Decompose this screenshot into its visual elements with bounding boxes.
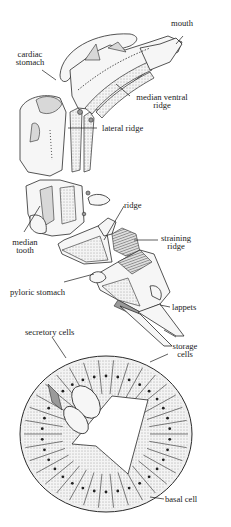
label-basal-cell: basal cell — [165, 495, 197, 503]
label-median-tooth: median tooth — [10, 238, 40, 255]
cell-nucleus — [47, 458, 50, 461]
cell-nucleus — [43, 417, 46, 420]
label-straining-ridge-line2: ridge — [156, 242, 196, 250]
cell-nucleus — [71, 383, 74, 386]
pyloric-stomach-drawing — [90, 250, 184, 346]
cell-nucleus — [105, 375, 108, 378]
cell-nucleus — [81, 379, 84, 382]
cell-nucleus — [148, 390, 151, 393]
cell-nucleus — [166, 448, 169, 451]
label-median-ventral-ridge-line2: ridge — [130, 101, 194, 109]
label-storage-cells: storage cells — [168, 342, 202, 359]
cell-nucleus — [47, 407, 50, 410]
cell-nucleus — [71, 482, 74, 485]
cell-nucleus — [93, 376, 96, 379]
cell-nucleus — [105, 491, 108, 494]
label-mouth: mouth — [171, 19, 193, 27]
cell-nucleus — [81, 487, 84, 490]
stomach-diagram — [0, 0, 231, 527]
label-straining-ridge: straining ridge — [156, 234, 196, 251]
label-median-ventral-ridge: median ventral ridge — [130, 93, 194, 110]
cell-nucleus — [148, 475, 151, 478]
label-median-tooth-line2: tooth — [10, 246, 40, 254]
label-lateral-ridge: lateral ridge — [102, 124, 143, 132]
cell-nucleus — [116, 490, 119, 493]
cell-nucleus — [61, 390, 64, 393]
label-secretory-cells: secretory cells — [25, 328, 74, 336]
cell-nucleus — [116, 376, 119, 379]
cell-nucleus — [41, 427, 44, 430]
cell-nucleus — [61, 475, 64, 478]
label-pyloric-stomach: pyloric stomach — [10, 288, 65, 296]
label-cardiac-stomach-line2: stomach — [13, 58, 47, 66]
cell-nucleus — [156, 398, 159, 401]
cell-nucleus — [162, 458, 165, 461]
label-cardiac-stomach: cardiac stomach — [13, 50, 47, 67]
cell-nucleus — [41, 438, 44, 441]
cell-nucleus — [138, 383, 141, 386]
cell-nucleus — [168, 427, 171, 430]
cell-nucleus — [128, 379, 131, 382]
cell-nucleus — [156, 468, 159, 471]
cell-nucleus — [162, 407, 165, 410]
label-ridge: ridge — [124, 201, 142, 209]
cell-nucleus — [54, 468, 57, 471]
cell-nucleus — [166, 417, 169, 420]
straining-ridge-drawing — [112, 228, 140, 256]
cell-nucleus — [138, 482, 141, 485]
label-lappets: lappets — [172, 303, 196, 311]
label-storage-cells-line2: cells — [168, 350, 202, 358]
cell-nucleus — [43, 448, 46, 451]
cell-nucleus — [128, 487, 131, 490]
cell-nucleus — [168, 438, 171, 441]
cell-nucleus — [93, 490, 96, 493]
tubule-cross-section — [20, 356, 192, 512]
